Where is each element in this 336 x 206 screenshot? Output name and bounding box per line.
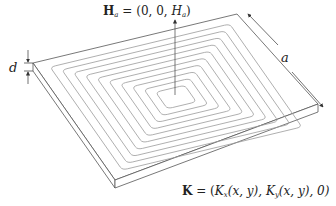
side-length-label: a bbox=[281, 51, 289, 64]
field-label: Ha = (0, 0, Ha) bbox=[103, 5, 191, 19]
current-density-label: K = (Kx(x, y), Ky(x, y), 0) bbox=[182, 185, 329, 199]
diagram-canvas: Ha = (0, 0, Ha) K = (Kx(x, y), Ky(x, y),… bbox=[0, 0, 336, 206]
thickness-label: d bbox=[9, 61, 17, 74]
thickness-indicator bbox=[24, 50, 33, 84]
plate-drawing bbox=[0, 0, 336, 206]
plate-top-face bbox=[33, 14, 318, 180]
